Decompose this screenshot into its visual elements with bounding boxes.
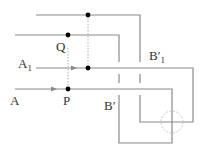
label-P: P — [63, 93, 70, 108]
diagram-canvas: Q A1 A P B′ B′1 — [0, 0, 203, 152]
point-dot — [86, 66, 91, 71]
label-A: A — [10, 93, 20, 108]
label-B-prime: B′ — [104, 98, 116, 113]
label-Q: Q — [56, 39, 66, 54]
diagram-svg: Q A1 A P B′ B′1 — [0, 0, 203, 152]
label-B1-sub: 1 — [161, 55, 166, 65]
point-P-dot — [66, 87, 71, 92]
arrow-icon — [51, 87, 57, 92]
label-A1: A1 — [18, 56, 32, 73]
arrow-icon — [71, 66, 77, 71]
label-B1-main: B′ — [149, 48, 161, 63]
label-B1-prime: B′1 — [149, 48, 165, 65]
point-dot — [86, 13, 91, 18]
point-Q-dot — [66, 33, 71, 38]
label-A1-sub: 1 — [27, 63, 32, 73]
